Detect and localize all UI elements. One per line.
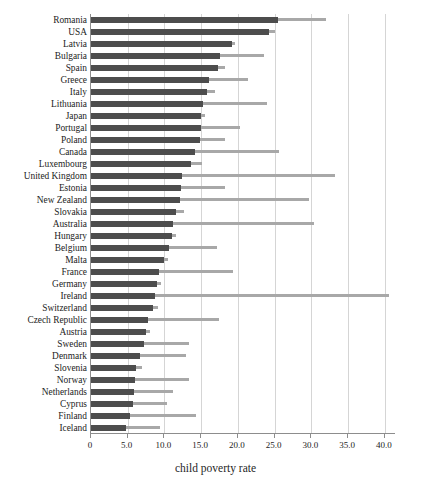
x-axis-tick xyxy=(200,434,201,438)
category-label: Romania xyxy=(0,14,87,26)
bar-value xyxy=(91,221,173,227)
bar-row xyxy=(91,350,395,362)
bar-row xyxy=(91,362,395,374)
category-label: Hungary xyxy=(0,230,87,242)
bar-row xyxy=(91,158,395,170)
bar-value xyxy=(91,413,130,419)
category-label: Japan xyxy=(0,110,87,122)
category-label: Australia xyxy=(0,218,87,230)
bar-value xyxy=(91,53,220,59)
bar-row xyxy=(91,374,395,386)
bar-row xyxy=(91,218,395,230)
bar-value xyxy=(91,113,201,119)
x-axis-tick xyxy=(163,434,164,438)
bar-value xyxy=(91,305,153,311)
bar-value xyxy=(91,425,126,431)
bar-row xyxy=(91,26,395,38)
category-label: Bulgaria xyxy=(0,50,87,62)
bar-row xyxy=(91,206,395,218)
bar-value xyxy=(91,125,201,131)
category-label: Iceland xyxy=(0,422,87,434)
value-axis: 05.010.015.020.025.030.035.040.0 xyxy=(90,434,395,460)
bar-value xyxy=(91,173,182,179)
x-axis-tick-label: 40.0 xyxy=(376,440,392,450)
bar-value xyxy=(91,197,180,203)
x-axis-tick-label: 0 xyxy=(88,440,93,450)
bar-row xyxy=(91,14,395,26)
bar-row xyxy=(91,278,395,290)
category-label: Switzerland xyxy=(0,302,87,314)
category-label: Austria xyxy=(0,326,87,338)
bar-value xyxy=(91,89,207,95)
bar-row xyxy=(91,38,395,50)
bar-value xyxy=(91,17,278,23)
category-label: Slovenia xyxy=(0,362,87,374)
bar-row xyxy=(91,182,395,194)
bar-row xyxy=(91,302,395,314)
x-axis-tick-label: 35.0 xyxy=(339,440,355,450)
category-label: Germany xyxy=(0,278,87,290)
category-axis-labels: RomaniaUSALatviaBulgariaSpainGreeceItaly… xyxy=(0,14,87,434)
bar-value xyxy=(91,161,191,167)
bar-row xyxy=(91,170,395,182)
bar-value xyxy=(91,233,172,239)
bar-value xyxy=(91,245,169,251)
bar-row xyxy=(91,110,395,122)
bar-value xyxy=(91,149,195,155)
category-label: Czech Republic xyxy=(0,314,87,326)
bar-row xyxy=(91,242,395,254)
bar-value xyxy=(91,209,176,215)
bar-value xyxy=(91,269,159,275)
x-axis-tick-label: 10.0 xyxy=(156,440,172,450)
bar-value xyxy=(91,29,269,35)
category-label: New Zealand xyxy=(0,194,87,206)
bar-row xyxy=(91,62,395,74)
category-label: Portugal xyxy=(0,122,87,134)
bar-row xyxy=(91,122,395,134)
category-label: Ireland xyxy=(0,290,87,302)
category-label: Norway xyxy=(0,374,87,386)
bar-value xyxy=(91,353,140,359)
child-poverty-rate-chart: RomaniaUSALatviaBulgariaSpainGreeceItaly… xyxy=(0,0,431,488)
x-axis-tick-label: 20.0 xyxy=(229,440,245,450)
category-label: Luxembourg xyxy=(0,158,87,170)
category-label: Estonia xyxy=(0,182,87,194)
x-axis-tick xyxy=(90,434,91,438)
bar-value xyxy=(91,257,164,263)
category-label: Italy xyxy=(0,86,87,98)
bar-value xyxy=(91,101,203,107)
x-axis-tick-label: 25.0 xyxy=(266,440,282,450)
category-label: Malta xyxy=(0,254,87,266)
bar-row xyxy=(91,146,395,158)
category-label: Lithuania xyxy=(0,98,87,110)
bar-row xyxy=(91,74,395,86)
x-axis-tick xyxy=(384,434,385,438)
category-label: Greece xyxy=(0,74,87,86)
bar-value xyxy=(91,329,146,335)
category-label: Poland xyxy=(0,134,87,146)
x-axis-tick xyxy=(347,434,348,438)
category-label: United Kingdom xyxy=(0,170,87,182)
category-label: Sweden xyxy=(0,338,87,350)
category-label: Canada xyxy=(0,146,87,158)
bar-row xyxy=(91,134,395,146)
category-label: Latvia xyxy=(0,38,87,50)
category-label: Cyprus xyxy=(0,398,87,410)
category-label: Finland xyxy=(0,410,87,422)
bar-row xyxy=(91,50,395,62)
bar-row xyxy=(91,266,395,278)
x-axis-title: child poverty rate xyxy=(0,462,431,474)
bar-row xyxy=(91,86,395,98)
category-label: Slovakia xyxy=(0,206,87,218)
bar-row xyxy=(91,422,395,434)
bar-row xyxy=(91,254,395,266)
bar-row xyxy=(91,410,395,422)
bar-value xyxy=(91,377,135,383)
category-label: USA xyxy=(0,26,87,38)
category-label: Spain xyxy=(0,62,87,74)
bar-value xyxy=(91,341,144,347)
bar-row xyxy=(91,314,395,326)
x-axis-tick xyxy=(237,434,238,438)
category-label: Belgium xyxy=(0,242,87,254)
bar-row xyxy=(91,194,395,206)
